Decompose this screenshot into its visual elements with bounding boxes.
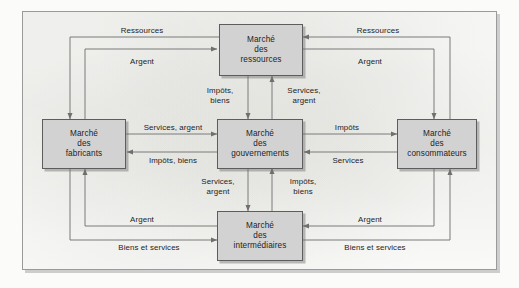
node-ressources-line3: ressources (240, 55, 281, 65)
node-fabricants-line2: des (77, 139, 91, 149)
node-consommateurs-line1: Marché (423, 129, 451, 139)
edge-label-ressources-to-gouvernements: Impôts, biens (193, 86, 247, 105)
edge-label-gouvernements-to-intermediaires: Services, argent (190, 177, 246, 196)
node-fabricants-line3: fabricants (66, 149, 103, 159)
node-marche-des-intermediaires[interactable]: Marché des intermédiaires (217, 211, 303, 261)
node-consommateurs-line3: consommateurs (407, 149, 467, 159)
node-intermediaires-line3: intermédiaires (234, 241, 287, 251)
edge-label-gouvernements-to-intermediaires-line1: Services, (190, 177, 246, 187)
node-marche-des-ressources[interactable]: Marché des ressources (219, 24, 303, 76)
edge-label-fabricants-to-ressources: Argent (112, 57, 172, 66)
node-gouvernements-line3: gouvernements (231, 149, 289, 159)
edge-label-gouvernements-to-ressources: Services, argent (276, 86, 332, 105)
edge-label-gouvernements-to-ressources-line2: argent (276, 96, 332, 106)
edge-label-ressources-to-fabricants: Ressources (102, 26, 182, 35)
edge-label-consommateurs-to-gouvernements: Services (316, 156, 380, 165)
edge-label-gouvernements-to-fabricants: Impôts, biens (136, 156, 210, 165)
edge-label-intermediaires-to-gouvernements-line1: Impôts, (276, 177, 330, 187)
node-consommateurs-line2: des (430, 139, 444, 149)
edge-label-gouvernements-to-consommateurs: Impôts (315, 123, 379, 132)
node-ressources-line2: des (254, 45, 268, 55)
edge-label-intermediaires-to-gouvernements-line2: biens (276, 187, 330, 197)
node-intermediaires-line2: des (253, 231, 267, 241)
edge-label-consommateurs-to-intermediaires: Argent (340, 215, 400, 224)
edge-label-gouvernements-to-intermediaires-line2: argent (190, 187, 246, 197)
edge-label-gouvernements-to-ressources-line1: Services, (276, 86, 332, 96)
edge-label-ressources-to-gouvernements-line1: Impôts, (193, 86, 247, 96)
edge-label-intermediaires-to-consommateurs: Biens et services (330, 243, 420, 252)
node-fabricants-line1: Marché (70, 129, 98, 139)
edge-label-ressources-to-consommateurs: Argent (340, 57, 400, 66)
node-gouvernements-line1: Marché (246, 129, 274, 139)
edge-label-fabricants-to-gouvernements: Services, argent (133, 123, 213, 132)
node-intermediaires-line1: Marché (246, 221, 274, 231)
node-marche-des-consommateurs[interactable]: Marché des consommateurs (397, 119, 477, 169)
edge-label-intermediaires-to-fabricants: Argent (112, 215, 172, 224)
node-ressources-line1: Marché (247, 35, 275, 45)
node-gouvernements-line2: des (253, 139, 267, 149)
edge-label-ressources-to-gouvernements-line2: biens (193, 96, 247, 106)
node-marche-des-fabricants[interactable]: Marché des fabricants (42, 119, 126, 169)
node-marche-des-gouvernements[interactable]: Marché des gouvernements (217, 119, 303, 169)
diagram-canvas: Marché des ressources Marché des fabrica… (0, 0, 519, 288)
edge-label-fabricants-to-intermediaires: Biens et services (104, 243, 194, 252)
edge-label-consommateurs-to-ressources: Ressources (338, 26, 418, 35)
edge-label-intermediaires-to-gouvernements: Impôts, biens (276, 177, 330, 196)
